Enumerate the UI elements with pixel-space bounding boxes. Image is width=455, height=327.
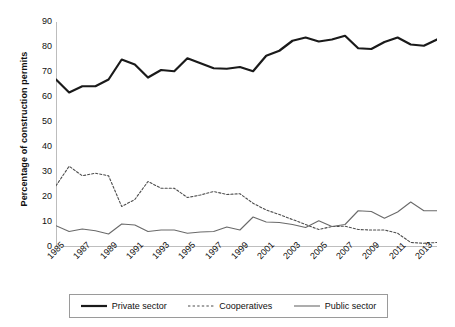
x-tick-label: 1987 — [71, 240, 92, 261]
x-tick-label: 2011 — [387, 240, 408, 261]
x-tick-label: 1989 — [98, 240, 119, 261]
legend-swatch-private-sector — [81, 302, 107, 310]
legend-item-public-sector: Public sector — [294, 301, 377, 311]
legend-label-private-sector: Private sector — [112, 301, 167, 311]
legend-swatch-cooperatives — [188, 302, 214, 310]
legend-item-cooperatives: Cooperatives — [188, 301, 272, 311]
x-tick-label: 1993 — [150, 240, 171, 261]
x-tick-label: 2007 — [334, 240, 355, 261]
legend-label-public-sector: Public sector — [325, 301, 377, 311]
x-tick-label: 1995 — [176, 240, 197, 261]
legend-swatch-public-sector — [294, 302, 320, 310]
x-tick-label: 2013 — [413, 240, 434, 261]
legend-label-cooperatives: Cooperatives — [219, 301, 272, 311]
chart-legend: Private sector Cooperatives Public secto… — [69, 294, 388, 318]
chart-figure: Percentage of construction permits 01020… — [0, 0, 455, 327]
x-tick-label: 2001 — [255, 240, 276, 261]
x-axis-tick-labels: 1985198719891991199319951997199920012003… — [0, 0, 455, 327]
x-tick-label: 1997 — [203, 240, 224, 261]
x-tick-label: 2009 — [360, 240, 381, 261]
x-tick-label: 2005 — [308, 240, 329, 261]
x-tick-label: 2003 — [281, 240, 302, 261]
legend-item-private-sector: Private sector — [81, 301, 167, 311]
x-tick-label: 1999 — [229, 240, 250, 261]
x-tick-label: 1991 — [124, 240, 145, 261]
x-tick-label: 1985 — [45, 240, 66, 261]
